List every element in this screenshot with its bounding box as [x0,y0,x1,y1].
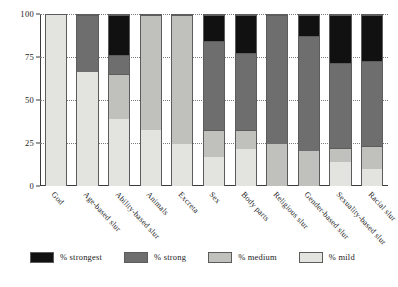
x-axis-label-racial-slur: Racial slur [366,190,398,223]
legend-swatch-medium [208,252,232,263]
y-tick-label-25: 25 [25,138,34,148]
bar-segment-mild [46,15,66,186]
bar-segment-medium [204,130,224,158]
bar-segment-strongest [204,15,224,41]
legend-item-mild[interactable]: % mild [299,252,355,263]
bar-excreta[interactable] [171,14,193,186]
legend-item-strong[interactable]: % strong [124,252,186,263]
bar-segment-strong [109,55,129,74]
legend-item-strongest[interactable]: % strongest [30,252,102,263]
bar-segment-mild [141,130,161,186]
x-axis-label-sex: Sex [208,190,223,205]
legend-swatch-strong [124,252,148,263]
bar-segment-strongest [330,15,350,63]
x-axis-labels: GodAge-based slurAbility-based slurAnima… [40,186,388,256]
bar-segment-mild [236,149,256,186]
bar-segment-mild [362,169,382,186]
bar-segment-mild [77,72,97,186]
bar-segment-medium [172,15,192,144]
bar-segment-strongest [299,15,319,36]
legend-swatch-strongest [30,252,54,263]
x-axis-label-body-parts: Body parts [239,190,271,223]
bar-segment-strong [267,15,287,144]
bar-segment-strong [330,63,350,148]
bar-age-based-slur[interactable] [76,14,98,186]
bar-animals[interactable] [140,14,162,186]
bar-body-parts[interactable] [235,14,257,186]
bars-layer [40,14,388,186]
bar-segment-mild [172,144,192,187]
y-tick-label-50: 50 [25,95,34,105]
y-tick-label-75: 75 [25,52,34,62]
bar-segment-strongest [362,15,382,61]
bar-segment-medium [109,74,129,119]
legend-label: % strongest [60,252,102,262]
bar-segment-medium [299,151,319,186]
bar-sexuality-based-slur[interactable] [329,14,351,186]
bar-segment-medium [141,15,161,130]
bar-gender-based-slur[interactable] [298,14,320,186]
stacked-bar-chart: 0255075100 GodAge-based slurAbility-base… [0,0,398,287]
bar-segment-strong [362,61,382,146]
x-axis-label-excreta: Excreta [176,190,200,215]
plot-area: 0255075100 [40,14,388,186]
bar-segment-strong [77,15,97,72]
bar-segment-mild [330,162,350,186]
bar-segment-mild [109,119,129,186]
bar-segment-strong [299,36,319,150]
y-tick-label-100: 100 [20,9,34,19]
bar-sex[interactable] [203,14,225,186]
bar-segment-strongest [236,15,256,53]
bar-religious-slur[interactable] [266,14,288,186]
legend-label: % medium [238,252,277,262]
bar-god[interactable] [45,14,67,186]
bar-segment-medium [330,148,350,162]
legend-item-medium[interactable]: % medium [208,252,277,263]
legend-label: % mild [329,252,355,262]
x-axis-label-animals: Animals [145,190,171,217]
bar-segment-medium [236,130,256,149]
x-axis-label-god: God [50,190,66,207]
bar-segment-strong [204,41,224,129]
bar-ability-based-slur[interactable] [108,14,130,186]
bar-segment-medium [362,146,382,169]
chart-legend: % strongest% strong% medium% mild [30,247,370,267]
legend-swatch-mild [299,252,323,263]
legend-label: % strong [154,252,186,262]
bar-segment-mild [204,157,224,186]
y-tick-label-0: 0 [29,181,34,191]
bar-racial-slur[interactable] [361,14,383,186]
bar-segment-strongest [109,15,129,55]
bar-segment-medium [267,144,287,187]
bar-segment-strong [236,53,256,130]
